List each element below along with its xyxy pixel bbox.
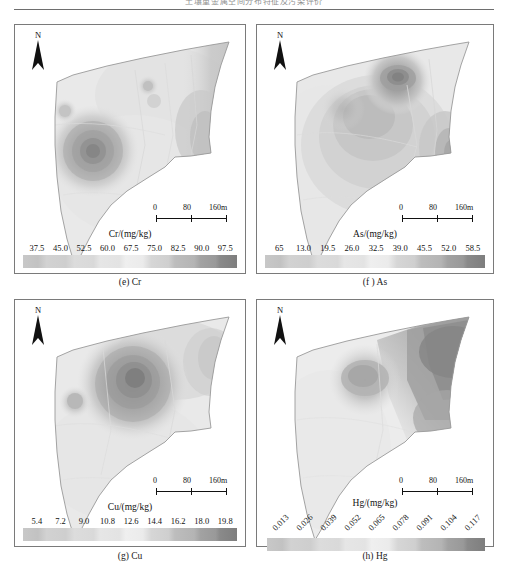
colorbar-hg: 0.013 0.026 0.039 0.052 0.065 0.078 0.09… <box>267 512 485 551</box>
unit-label-cr: Cr/(mg/kg) <box>15 229 245 239</box>
colorbar-tick: 32.5 <box>369 243 384 253</box>
running-header-text: 土壤重金属空间分布特征及污染评价 <box>0 0 508 6</box>
colorbar-cr: 37.5 45.0 52.5 60.0 67.5 75.0 82.5 90.0 … <box>23 243 237 268</box>
colorbar-tick: 0.013 <box>271 512 292 533</box>
colorbar-tick: 0.065 <box>367 512 388 533</box>
scale-label-0: 0 <box>153 203 157 212</box>
north-label: N <box>267 30 293 40</box>
colorbar-tick: 97.5 <box>218 243 233 253</box>
north-arrow-icon <box>267 315 293 347</box>
north-arrow-cr: N <box>25 31 51 73</box>
scale-label-0: 0 <box>399 203 403 212</box>
scale-bar-hg: 0 80 160m <box>399 476 485 496</box>
scale-bar-as: 0 80 160m <box>399 203 485 223</box>
scale-label-1: 80 <box>429 203 437 212</box>
colorbar-tick: 7.2 <box>55 516 66 526</box>
colorbar-as: 65 13.0 19.5 26.0 32.5 39.0 45.5 52.0 58… <box>265 243 485 268</box>
colorbar-tick: 52.5 <box>77 243 92 253</box>
figure-page: 土壤重金属空间分布特征及污染评价 <box>0 0 508 564</box>
colorbar-tick: 82.5 <box>171 243 186 253</box>
scale-label-0: 0 <box>153 476 157 485</box>
colorbar-ticks-hg: 0.013 0.026 0.039 0.052 0.065 0.078 0.09… <box>267 512 485 532</box>
scale-label-2: 160m <box>209 203 227 212</box>
unit-label-hg: Hg/(mg/kg) <box>257 498 493 508</box>
colorbar-tick: 10.8 <box>100 516 115 526</box>
colorbar-tick: 19.5 <box>320 243 335 253</box>
north-arrow-cu: N <box>25 306 51 348</box>
north-label: N <box>267 305 293 315</box>
colorbar-tick: 26.0 <box>344 243 359 253</box>
colorbar-tick: 19.8 <box>218 516 233 526</box>
colorbar-tick: 67.5 <box>124 243 139 253</box>
colorbar-cu: 5.4 7.2 9.0 10.8 12.6 14.4 16.2 18.0 19.… <box>23 516 237 541</box>
colorbar-tick: 45.0 <box>53 243 68 253</box>
scale-bar-cr: 0 80 160m <box>153 203 239 223</box>
colorbar-tick: 90.0 <box>194 243 209 253</box>
colorbar-strip-cr <box>23 255 237 268</box>
colorbar-tick: 0.039 <box>319 512 340 533</box>
colorbar-tick: 0.117 <box>463 512 483 532</box>
colorbar-tick: 45.5 <box>417 243 432 253</box>
panel-cr: N 0 80 160m Cr/(mg/kg) 37.5 <box>14 24 246 274</box>
colorbar-tick: 13.0 <box>296 243 311 253</box>
panel-caption-cr: (e) Cr <box>14 277 246 287</box>
panel-as: N 0 80 160m As/(mg/kg) 65 <box>256 24 494 274</box>
colorbar-tick: 0.091 <box>414 512 435 533</box>
colorbar-tick: 14.4 <box>147 516 162 526</box>
panel-hg: N 0 80 160m Hg/(mg/kg) 0.01 <box>256 299 494 547</box>
colorbar-ticks-cu: 5.4 7.2 9.0 10.8 12.6 14.4 16.2 18.0 19.… <box>23 516 237 528</box>
colorbar-tick: 0.026 <box>295 512 316 533</box>
header-rule <box>14 9 494 10</box>
north-label: N <box>25 305 51 315</box>
colorbar-strip-cu <box>23 528 237 541</box>
panel-grid: N 0 80 160m Cr/(mg/kg) 37.5 <box>0 12 508 564</box>
scale-bar-rule <box>399 488 485 496</box>
colorbar-tick: 60.0 <box>100 243 115 253</box>
scale-label-2: 160m <box>455 203 473 212</box>
panel-caption-as: (f ) As <box>256 277 494 287</box>
scale-bar-rule <box>399 215 485 223</box>
panel-caption-cu: (g) Cu <box>14 551 246 561</box>
colorbar-tick: 58.5 <box>465 243 480 253</box>
colorbar-ticks-cr: 37.5 45.0 52.5 60.0 67.5 75.0 82.5 90.0 … <box>23 243 237 255</box>
scale-label-1: 80 <box>183 476 191 485</box>
colorbar-tick: 5.4 <box>32 516 43 526</box>
colorbar-tick: 9.0 <box>79 516 90 526</box>
colorbar-tick: 52.0 <box>441 243 456 253</box>
north-arrow-as: N <box>267 31 293 73</box>
scale-label-2: 160m <box>455 476 473 485</box>
scale-bar-cu: 0 80 160m <box>153 476 239 496</box>
colorbar-ticks-as: 65 13.0 19.5 26.0 32.5 39.0 45.5 52.0 58… <box>265 243 485 255</box>
scale-label-2: 160m <box>209 476 227 485</box>
colorbar-tick: 75.0 <box>147 243 162 253</box>
colorbar-tick: 0.078 <box>390 512 411 533</box>
colorbar-tick: 39.0 <box>393 243 408 253</box>
colorbar-tick: 0.052 <box>343 512 364 533</box>
colorbar-tick: 37.5 <box>29 243 44 253</box>
colorbar-strip-hg <box>267 538 485 551</box>
north-label: N <box>25 30 51 40</box>
colorbar-tick: 18.0 <box>194 516 209 526</box>
north-arrow-icon <box>25 315 51 347</box>
colorbar-tick: 16.2 <box>171 516 186 526</box>
colorbar-tick: 0.104 <box>438 512 459 533</box>
north-arrow-hg: N <box>267 306 293 348</box>
colorbar-tick: 65 <box>275 243 284 253</box>
scale-bar-rule <box>153 488 239 496</box>
scale-label-1: 80 <box>183 203 191 212</box>
unit-label-as: As/(mg/kg) <box>257 229 493 239</box>
scale-label-1: 80 <box>429 476 437 485</box>
north-arrow-icon <box>25 40 51 72</box>
north-arrow-icon <box>267 40 293 72</box>
scale-bar-rule <box>153 215 239 223</box>
scale-label-0: 0 <box>399 476 403 485</box>
colorbar-tick: 12.6 <box>124 516 139 526</box>
unit-label-cu: Cu/(mg/kg) <box>15 502 245 512</box>
colorbar-strip-as <box>265 255 485 268</box>
panel-cu: N 0 80 160m Cu/(mg/kg) 5.4 <box>14 299 246 547</box>
panel-caption-hg: (h) Hg <box>256 551 494 561</box>
